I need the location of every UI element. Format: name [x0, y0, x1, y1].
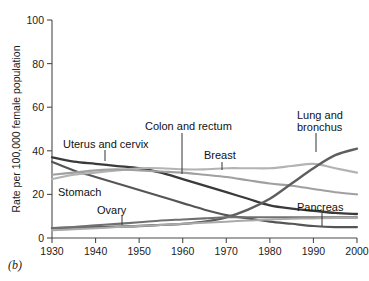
y-tick-label-0: 0	[38, 232, 44, 244]
series-pancreas	[52, 218, 357, 230]
line-chart: 020406080100 193019401950196019701980199…	[0, 0, 369, 281]
label-lung-and-bronchus-line1: Lung and	[297, 109, 343, 121]
y-tick-label-80: 80	[32, 58, 44, 70]
x-tick-label-1980: 1980	[258, 245, 282, 257]
y-axis-title: Rate per 100,000 female population	[10, 45, 22, 212]
figure-panel: 020406080100 193019401950196019701980199…	[0, 0, 369, 281]
label-stomach: Stomach	[58, 186, 101, 198]
y-axis-ticks: 020406080100	[26, 14, 52, 244]
label-uterus-and-cervix: Uterus and cervix	[63, 138, 149, 150]
label-breast: Breast	[204, 149, 236, 161]
label-pancreas: Pancreas	[297, 201, 344, 213]
y-tick-label-100: 100	[26, 14, 44, 26]
x-tick-label-1930: 1930	[40, 245, 64, 257]
x-tick-label-1950: 1950	[127, 245, 151, 257]
x-tick-label-1970: 1970	[215, 245, 239, 257]
x-tick-label-1940: 1940	[84, 245, 108, 257]
x-tick-label-2000: 2000	[345, 245, 369, 257]
label-colon-and-rectum: Colon and rectum	[145, 120, 232, 132]
annotation-labels: Uterus and cervix Stomach Ovary Colon an…	[58, 109, 344, 216]
panel-label: (b)	[8, 258, 22, 273]
label-ovary: Ovary	[97, 204, 127, 216]
y-tick-label-40: 40	[32, 145, 44, 157]
x-axis-ticks: 19301940195019601970198019902000	[40, 238, 369, 257]
x-tick-label-1960: 1960	[171, 245, 195, 257]
x-tick-label-1990: 1990	[302, 245, 326, 257]
label-lung-and-bronchus-line2: bronchus	[297, 121, 343, 133]
y-tick-label-60: 60	[32, 101, 44, 113]
y-tick-label-20: 20	[32, 188, 44, 200]
